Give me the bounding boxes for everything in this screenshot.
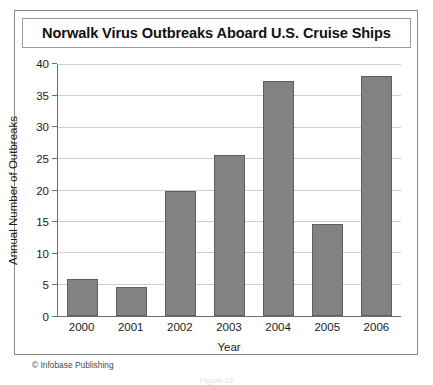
x-tick-label: 2003 [204, 321, 253, 333]
bar-slot [254, 65, 303, 316]
bar-series [58, 65, 401, 316]
y-tick-mark [52, 221, 57, 222]
x-tick-label: 2005 [303, 321, 352, 333]
plot-area [57, 64, 401, 317]
y-tick-label: 30 [36, 121, 49, 133]
x-tick-label: 2000 [57, 321, 106, 333]
x-tick-label: 2006 [352, 321, 401, 333]
y-tick-label: 5 [43, 279, 49, 291]
x-tick-label: 2002 [155, 321, 204, 333]
y-tick-mark [52, 95, 57, 96]
y-tick-label: 20 [36, 185, 49, 197]
y-tick-label: 25 [36, 153, 49, 165]
y-tick-label: 35 [36, 90, 49, 102]
y-axis-title: Annual Number of Outbreaks [7, 64, 21, 317]
figure-frame: Norwalk Virus Outbreaks Aboard U.S. Crui… [14, 10, 418, 355]
bar-slot [205, 65, 254, 316]
bar-2005 [312, 224, 342, 316]
y-tick-label: 40 [36, 58, 49, 70]
chart-title-box: Norwalk Virus Outbreaks Aboard U.S. Crui… [22, 18, 411, 48]
y-tick-mark [52, 126, 57, 127]
page-title: Norwalk Virus Outbreaks Aboard U.S. Crui… [42, 25, 391, 41]
bar-slot [156, 65, 205, 316]
y-tick-label: 0 [43, 311, 49, 323]
bar-slot [352, 65, 401, 316]
bar-slot [58, 65, 107, 316]
bar-2002 [165, 191, 195, 317]
x-axis-title: Year [57, 341, 401, 353]
x-tick-label: 2001 [106, 321, 155, 333]
y-tick-mark [52, 316, 57, 317]
plot-wrapper: 0510152025303540 [57, 64, 401, 317]
bar-slot [303, 65, 352, 316]
bar-2003 [214, 155, 244, 316]
y-tick-mark [52, 158, 57, 159]
y-tick-mark [52, 253, 57, 254]
bar-2004 [263, 81, 293, 316]
y-tick-mark [52, 63, 57, 64]
bar-2001 [116, 287, 146, 316]
x-tick-label: 2004 [254, 321, 303, 333]
bar-slot [107, 65, 156, 316]
y-tick-label: 15 [36, 216, 49, 228]
x-axis-ticks: 2000200120022003200420052006 [57, 321, 401, 333]
bar-2006 [361, 76, 391, 316]
y-tick-label: 10 [36, 248, 49, 260]
publisher-credit: © Infobase Publishing [32, 360, 114, 370]
y-tick-mark [52, 190, 57, 191]
figure-caption: Figure 12 [0, 376, 433, 385]
bar-2000 [67, 279, 97, 316]
y-tick-mark [52, 284, 57, 285]
